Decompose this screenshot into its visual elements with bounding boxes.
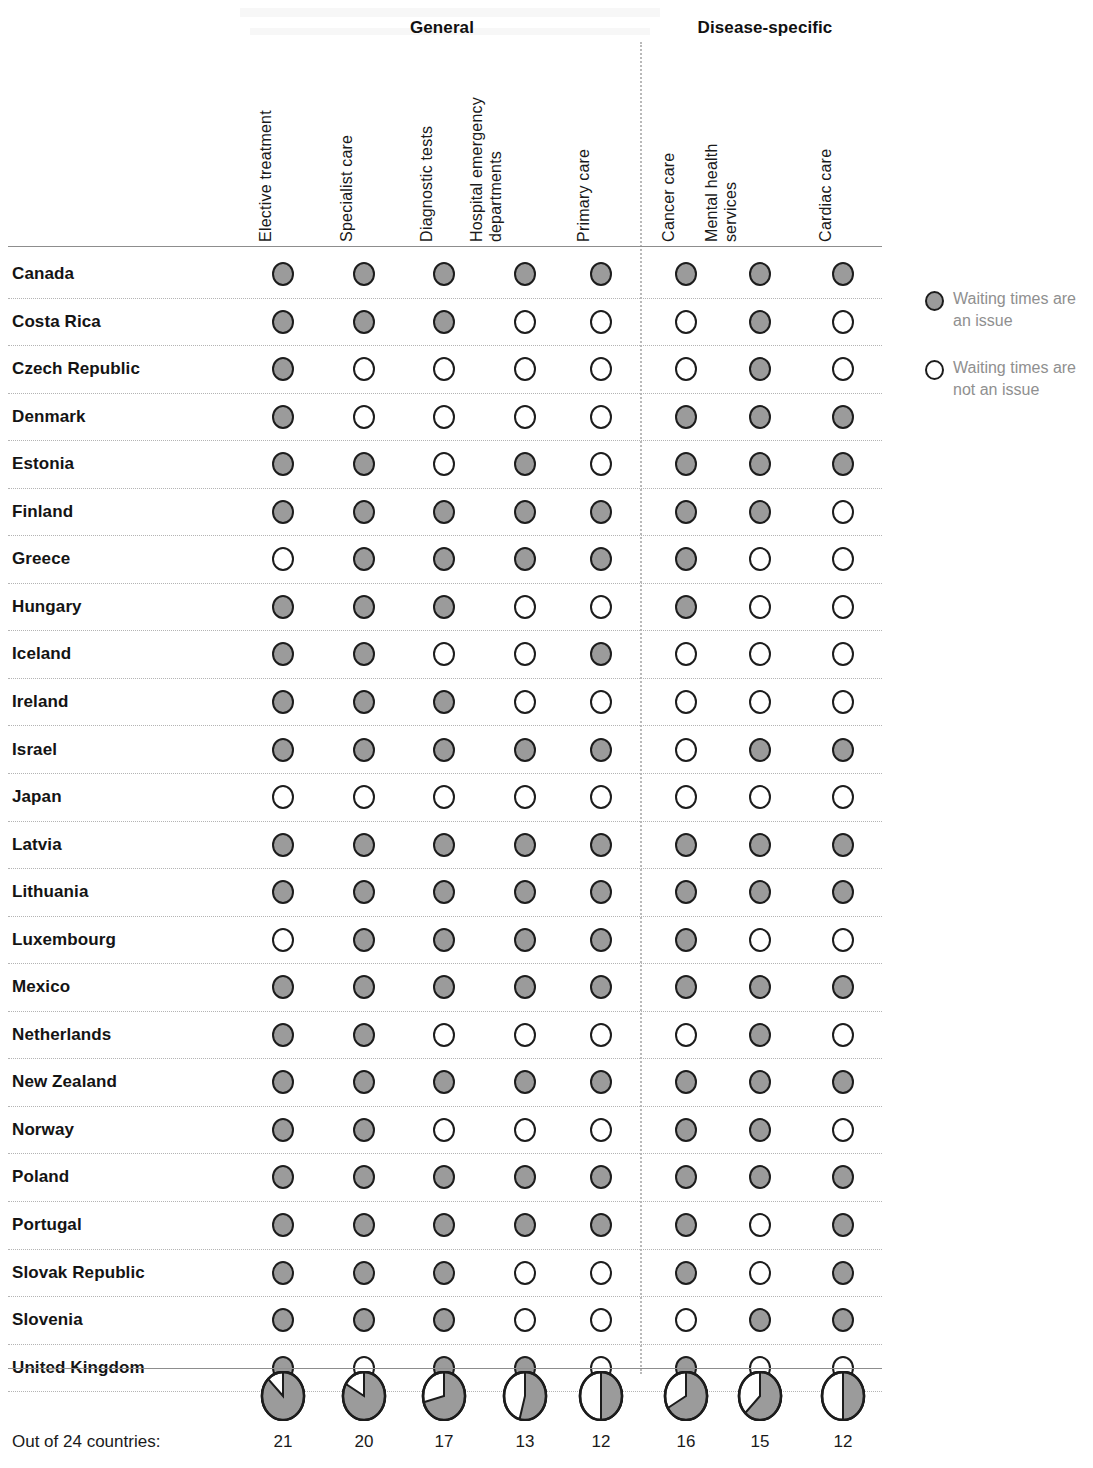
marker-issue-icon: [749, 405, 771, 429]
marker-issue-icon: [590, 642, 612, 666]
marker-issue-icon: [272, 738, 294, 762]
marker-issue-icon: [433, 1261, 455, 1285]
marker-no-issue-icon: [353, 357, 375, 381]
marker-issue-icon: [832, 1165, 854, 1189]
marker-no-issue-icon: [675, 738, 697, 762]
marker-issue-icon: [749, 738, 771, 762]
marker-issue-icon: [272, 595, 294, 619]
marker-no-issue-icon: [514, 1308, 536, 1332]
marker-issue-icon: [433, 1213, 455, 1237]
marker-issue-icon: [675, 500, 697, 524]
marker-issue-icon: [749, 262, 771, 286]
marker-issue-icon: [433, 928, 455, 952]
marker-issue-icon: [272, 880, 294, 904]
marker-issue-icon: [353, 1118, 375, 1142]
marker-issue-icon: [514, 738, 536, 762]
summary-pie-chart: [260, 1371, 306, 1421]
marker-no-issue-icon: [832, 500, 854, 524]
column-header-diagnostic-tests: Diagnostic tests: [418, 126, 437, 242]
marker-no-issue-icon: [749, 547, 771, 571]
marker-issue-icon: [832, 1308, 854, 1332]
marker-no-issue-icon: [832, 595, 854, 619]
marker-issue-icon: [749, 452, 771, 476]
marker-no-issue-icon: [514, 642, 536, 666]
row-label-hungary: Hungary: [12, 597, 82, 617]
row-label-czech-republic: Czech Republic: [12, 359, 140, 379]
marker-issue-icon: [749, 833, 771, 857]
marker-no-issue-icon: [832, 785, 854, 809]
marker-no-issue-icon: [433, 452, 455, 476]
marker-issue-icon: [590, 833, 612, 857]
row-label-iceland: Iceland: [12, 644, 71, 664]
marker-no-issue-icon: [272, 928, 294, 952]
marker-issue-icon: [675, 975, 697, 999]
row-separator: [8, 393, 882, 394]
marker-issue-icon: [675, 262, 697, 286]
row-label-new-zealand: New Zealand: [12, 1072, 117, 1092]
marker-issue-icon: [514, 880, 536, 904]
marker-issue-icon: [272, 1070, 294, 1094]
marker-issue-icon: [514, 928, 536, 952]
row-separator: [8, 963, 882, 964]
marker-issue-icon: [514, 547, 536, 571]
legend-marker-issue-icon: [925, 291, 944, 311]
summary-total: 20: [355, 1432, 374, 1452]
marker-no-issue-icon: [590, 452, 612, 476]
marker-issue-icon: [353, 975, 375, 999]
marker-no-issue-icon: [749, 785, 771, 809]
marker-issue-icon: [590, 500, 612, 524]
marker-issue-icon: [353, 452, 375, 476]
marker-issue-icon: [675, 405, 697, 429]
marker-no-issue-icon: [832, 357, 854, 381]
marker-issue-icon: [272, 1165, 294, 1189]
marker-no-issue-icon: [832, 690, 854, 714]
row-label-netherlands: Netherlands: [12, 1025, 111, 1045]
marker-issue-icon: [832, 975, 854, 999]
marker-issue-icon: [272, 357, 294, 381]
summary-total: 15: [751, 1432, 770, 1452]
marker-issue-icon: [590, 880, 612, 904]
marker-no-issue-icon: [675, 1308, 697, 1332]
marker-issue-icon: [433, 1165, 455, 1189]
marker-no-issue-icon: [675, 642, 697, 666]
marker-no-issue-icon: [433, 1023, 455, 1047]
marker-issue-icon: [832, 405, 854, 429]
row-separator: [8, 298, 882, 299]
legend: Waiting times are an issue Waiting times…: [925, 288, 1093, 426]
marker-no-issue-icon: [675, 690, 697, 714]
marker-issue-icon: [272, 500, 294, 524]
marker-issue-icon: [590, 1070, 612, 1094]
legend-marker-no-issue-icon: [925, 360, 944, 380]
marker-no-issue-icon: [353, 785, 375, 809]
marker-no-issue-icon: [832, 928, 854, 952]
marker-no-issue-icon: [832, 642, 854, 666]
marker-issue-icon: [590, 547, 612, 571]
marker-issue-icon: [514, 1213, 536, 1237]
marker-issue-icon: [832, 1070, 854, 1094]
row-separator: [8, 345, 882, 346]
marker-issue-icon: [272, 1308, 294, 1332]
marker-issue-icon: [272, 975, 294, 999]
marker-issue-icon: [272, 642, 294, 666]
summary-pie-chart: [421, 1371, 467, 1421]
row-label-estonia: Estonia: [12, 454, 74, 474]
marker-issue-icon: [514, 452, 536, 476]
marker-issue-icon: [590, 975, 612, 999]
marker-no-issue-icon: [832, 547, 854, 571]
column-header-cardiac-care: Cardiac care: [817, 149, 836, 242]
marker-no-issue-icon: [590, 310, 612, 334]
marker-issue-icon: [272, 452, 294, 476]
marker-issue-icon: [353, 547, 375, 571]
marker-issue-icon: [433, 500, 455, 524]
marker-issue-icon: [675, 1213, 697, 1237]
marker-no-issue-icon: [832, 1023, 854, 1047]
marker-no-issue-icon: [514, 1261, 536, 1285]
legend-label-issue: Waiting times are an issue: [953, 290, 1076, 329]
marker-no-issue-icon: [272, 785, 294, 809]
marker-issue-icon: [433, 547, 455, 571]
row-label-greece: Greece: [12, 549, 70, 569]
marker-issue-icon: [353, 500, 375, 524]
row-separator: [8, 725, 882, 726]
row-separator: [8, 440, 882, 441]
row-label-israel: Israel: [12, 740, 57, 760]
